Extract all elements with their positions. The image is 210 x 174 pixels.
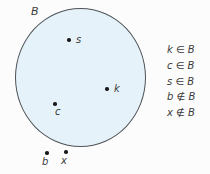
- membership-statement-x: x ∉ B: [167, 105, 209, 121]
- point-x-dot: [64, 150, 68, 154]
- point-c-dot: [53, 102, 57, 106]
- point-k-label: k: [114, 83, 120, 94]
- membership-statement-b: b ∉ B: [167, 89, 209, 105]
- membership-statement-k: k ∈ B: [167, 42, 209, 58]
- point-k-dot: [105, 87, 109, 91]
- point-c-label: c: [55, 106, 61, 117]
- membership-statement-c: c ∈ B: [167, 58, 209, 74]
- point-b-label: b: [42, 156, 48, 167]
- membership-statement-s: s ∈ B: [167, 74, 209, 90]
- set-b-circle: [15, 8, 146, 147]
- point-b-dot: [45, 151, 49, 155]
- membership-statement-list: k ∈ B c ∈ B s ∈ B b ∉ B x ∉ B: [167, 42, 209, 121]
- euler-diagram-figure: B s k c b x k ∈ B c ∈ B s ∈ B b ∉ B x ∉ …: [0, 0, 210, 174]
- point-s-label: s: [76, 34, 81, 45]
- set-b-label: B: [31, 6, 39, 18]
- point-s-dot: [67, 38, 71, 42]
- point-x-label: x: [61, 155, 67, 166]
